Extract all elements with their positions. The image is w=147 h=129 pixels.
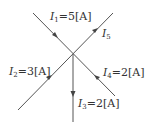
junction-diagram: I1=5[A] I5 I2=3[A] I4=2[A] I3=2[A] xyxy=(0,0,147,129)
wire-i2-i5 xyxy=(18,13,113,110)
wire-i1-i4 xyxy=(33,13,115,96)
label-i4: I4=2[A] xyxy=(103,67,145,80)
label-i3: I3=2[A] xyxy=(78,98,120,111)
label-i1: I1=5[A] xyxy=(50,11,92,24)
arrow-i5-icon xyxy=(92,28,98,33)
label-i2: I2=3[A] xyxy=(9,66,51,79)
arrow-i3-icon xyxy=(71,91,76,97)
label-i5: I5 xyxy=(102,28,111,41)
